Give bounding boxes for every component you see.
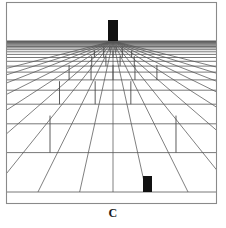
near-block-object [143,176,152,192]
figure-caption: C [0,206,226,220]
perspective-figure: C [0,0,226,228]
far-tower-object [108,20,118,41]
perspective-scene-svg [0,0,226,228]
